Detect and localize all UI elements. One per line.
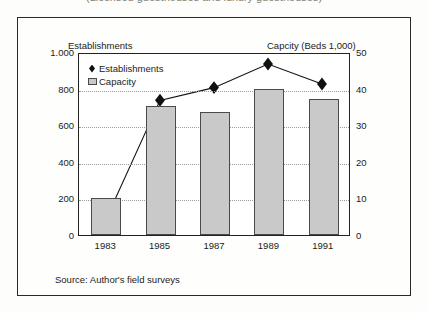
data-point-establishments-1987 (209, 81, 219, 94)
left-tick-400: 400 (58, 157, 74, 168)
figure-title-text: (Licensed guesthouses and luxury guestho… (86, 0, 322, 3)
left-axis-ticks: 02004006008001.000 (30, 53, 74, 236)
bar-capacity-1985 (146, 106, 176, 235)
left-tick-0: 0 (69, 230, 74, 241)
x-tick-1987: 1987 (203, 240, 224, 251)
right-tick-30: 30 (356, 120, 367, 131)
bar-capacity-1987 (200, 112, 230, 235)
clipped-figure-title: (Licensed guesthouses and luxury guestho… (0, 0, 428, 9)
left-tick-1.000: 1.000 (50, 47, 74, 58)
source-note: Source: Author's field surveys (55, 274, 180, 285)
right-tick-40: 40 (356, 84, 367, 95)
data-point-establishments-1991 (317, 78, 327, 91)
x-tick-1991: 1991 (312, 240, 333, 251)
right-tick-0: 0 (356, 230, 361, 241)
right-tick-20: 20 (356, 157, 367, 168)
gridline (79, 91, 349, 92)
right-axis-header: Capcity (Beds 1,000) (267, 40, 356, 51)
x-tick-1985: 1985 (149, 240, 170, 251)
x-tick-1983: 1983 (95, 240, 116, 251)
diamond-marker-icon (88, 64, 97, 73)
left-tick-600: 600 (58, 120, 74, 131)
bar-capacity-1989 (254, 89, 284, 235)
bar-capacity-1983 (91, 198, 121, 235)
left-axis-header: Establishments (68, 40, 132, 51)
legend-item-establishments: Establishments (88, 62, 163, 75)
x-tick-1989: 1989 (258, 240, 279, 251)
chart-page: (Licensed guesthouses and luxury guestho… (0, 0, 428, 313)
legend-label: Capacity (99, 76, 136, 87)
x-axis-ticks: 19831985198719891991 (78, 240, 350, 254)
left-tick-800: 800 (58, 84, 74, 95)
legend-item-capacity: Capacity (88, 75, 163, 88)
bar-capacity-1991 (309, 99, 339, 236)
data-point-establishments-1989 (263, 58, 273, 71)
chart-legend: EstablishmentsCapacity (86, 60, 167, 90)
legend-label: Establishments (99, 63, 163, 74)
left-tick-200: 200 (58, 193, 74, 204)
right-tick-50: 50 (356, 47, 367, 58)
right-axis-ticks: 01020304050 (356, 53, 396, 236)
right-tick-10: 10 (356, 193, 367, 204)
bar-swatch-icon (88, 78, 97, 85)
